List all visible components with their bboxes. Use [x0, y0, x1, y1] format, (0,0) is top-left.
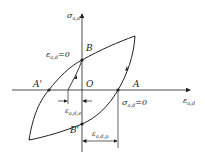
point-A-prime: [47, 88, 50, 91]
label-B-prime: B': [69, 125, 79, 135]
point-B: [80, 58, 83, 61]
y-axis-label: σa,d: [67, 11, 80, 21]
label-A: A: [132, 79, 140, 89]
hysteresis-diagram: σa,d εa,d B A A' O B' εa,d=0 σa,d=0 εa,d…: [0, 0, 205, 157]
label-A-prime: A': [32, 79, 42, 89]
plastic-strain-label: εa,d,p: [92, 130, 109, 140]
elastic-strain-label: εa,d,e: [65, 107, 81, 116]
label-B: B: [85, 43, 93, 53]
stress-zero-label: σa,d=0: [122, 98, 147, 108]
strain-zero-label: εa,d=0: [46, 50, 70, 60]
label-O: O: [86, 79, 94, 89]
x-axis-label: εa,d: [183, 96, 195, 106]
point-B-prime: [80, 122, 83, 125]
